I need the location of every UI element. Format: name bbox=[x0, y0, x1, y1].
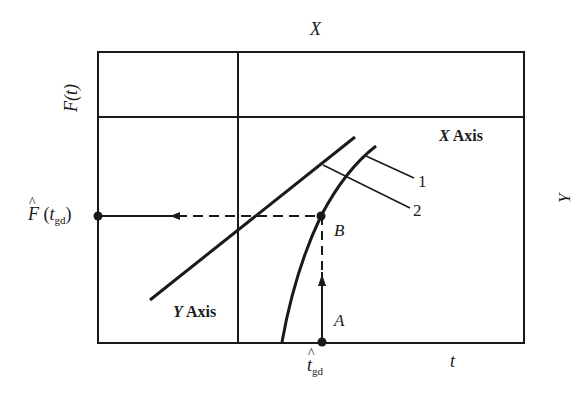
diagram-canvas bbox=[0, 0, 588, 395]
point-b-label: B bbox=[334, 222, 344, 239]
curve-label-1: 1 bbox=[418, 173, 427, 190]
x-axis-word: Axis bbox=[453, 127, 483, 144]
point-left-axis bbox=[94, 212, 103, 221]
leader-line-1 bbox=[366, 156, 414, 178]
left-point-label: ^ F (tgd) bbox=[28, 205, 72, 223]
point-b bbox=[317, 212, 326, 221]
gd-subscript-bottom: gd bbox=[312, 365, 323, 377]
bottom-axis-label: t bbox=[450, 352, 455, 370]
left-axis-label: F(t) bbox=[62, 84, 80, 112]
arrow-left-icon bbox=[170, 212, 180, 220]
arrow-up-icon bbox=[318, 274, 326, 286]
top-label: X bbox=[310, 20, 321, 38]
curve-line bbox=[282, 146, 376, 342]
right-label: Y bbox=[556, 194, 573, 203]
gd-subscript: gd bbox=[55, 214, 66, 226]
f-hat: ^ F bbox=[28, 205, 39, 223]
curve-label-2: 2 bbox=[413, 202, 422, 219]
y-axis-word: Axis bbox=[186, 303, 216, 320]
close-paren: ) bbox=[66, 204, 72, 224]
x-axis-letter: X bbox=[439, 127, 450, 144]
outer-frame bbox=[98, 52, 524, 343]
y-axis-letter: Y bbox=[173, 303, 183, 320]
x-axis-name: X Axis bbox=[439, 128, 483, 144]
leader-line-2 bbox=[323, 165, 410, 208]
hat-symbol-bottom: ^ bbox=[308, 347, 315, 361]
point-a-label: A bbox=[334, 312, 344, 329]
point-a bbox=[318, 338, 327, 347]
hat-symbol: ^ bbox=[29, 196, 36, 210]
t-variable: t bbox=[50, 204, 55, 224]
y-axis-name: Y Axis bbox=[173, 304, 216, 320]
bottom-point-label: ^ t gd bbox=[307, 356, 323, 374]
